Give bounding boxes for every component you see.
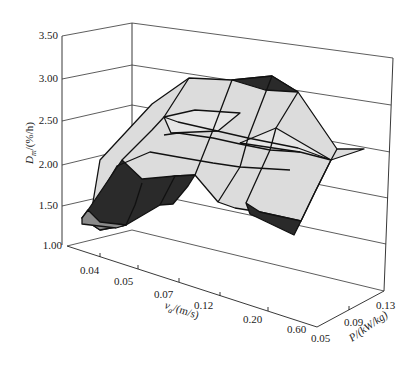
z-axis-title: Dm/(%/h) [23,122,38,165]
z-tick-label: 1.00 [43,239,63,251]
chart-canvas: 3.50 3.00 2.50 2.00 1.50 1.00 Dm/(%/h) 0… [0,0,417,366]
surface-mesh [82,76,364,235]
z-axis: 3.50 3.00 2.50 2.00 1.50 1.00 Dm/(%/h) [23,29,63,251]
floor-ticks [100,253,349,311]
z-tick-label: 3.00 [39,72,59,84]
x-axis: 0.04 0.05 0.07 0.12 0.20 0.60 va/(m/s) [80,264,307,335]
z-tick-label: 2.50 [39,114,59,126]
y-tick-label: 0.13 [376,299,396,311]
x-tick-label: 0.05 [114,275,134,287]
z-tick-label: 2.00 [39,158,59,170]
x-tick-label: 0.04 [80,264,100,276]
z-tick-label: 1.50 [39,199,59,211]
y-tick-label: 0.05 [311,332,331,344]
y-axis: 0.05 0.09 0.13 P/(kW/kg) [311,299,396,345]
x-tick-label: 0.20 [243,313,263,325]
surface-chart: 3.50 3.00 2.50 2.00 1.50 1.00 Dm/(%/h) 0… [0,0,417,366]
x-tick-label: 0.07 [154,288,174,300]
z-tick-label: 3.50 [39,29,59,41]
x-tick-label: 0.60 [287,323,307,335]
